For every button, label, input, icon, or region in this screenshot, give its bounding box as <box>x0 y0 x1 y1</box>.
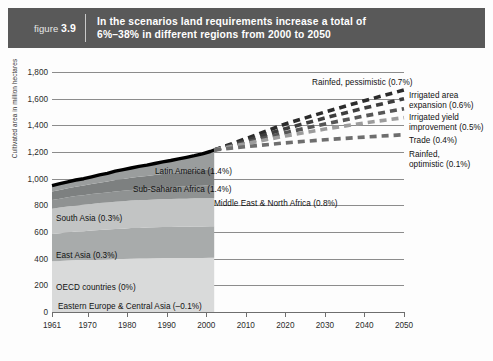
scenario-label-line: expansion (0.6%) <box>409 101 474 111</box>
scenario-label-line: Rainfed, <box>409 150 470 160</box>
region-label: Eastern Europe & Central Asia (–0.1%) <box>58 302 202 311</box>
scenario-label-line: Irrigated area <box>409 91 474 101</box>
scenario-label-line: optimistic (0.1%) <box>409 160 470 170</box>
chart-plot-area: Cultivated area in million hectares 0200… <box>0 0 493 361</box>
scenario-label-line: Trade (0.4%) <box>409 136 457 146</box>
scenario-label: Trade (0.4%) <box>409 136 457 146</box>
figure-container: figure 3.9 In the scenarios land require… <box>0 0 493 361</box>
region-label: Middle East & North Africa (0.8%) <box>214 199 338 208</box>
scenario-label-line: Irrigated yield <box>409 113 484 123</box>
region-label: Latin America (1.4%) <box>155 167 232 176</box>
scenario-label-line: improvement (0.5%) <box>409 123 484 133</box>
region-label: South Asia (0.3%) <box>56 214 122 223</box>
scenario-label: Rainfed, pessimistic (0.7%) <box>312 78 413 88</box>
scenario-label-line: Rainfed, pessimistic (0.7%) <box>312 78 413 88</box>
region-label: East Asia (0.3%) <box>56 251 117 260</box>
region-label: OECD countries (0%) <box>56 283 136 292</box>
region-label: Sub-Saharan Africa (1.4%) <box>133 185 232 194</box>
scenario-label: Irrigated yieldimprovement (0.5%) <box>409 113 484 132</box>
scenario-label: Rainfed,optimistic (0.1%) <box>409 150 470 169</box>
scenario-label: Irrigated areaexpansion (0.6%) <box>409 91 474 110</box>
